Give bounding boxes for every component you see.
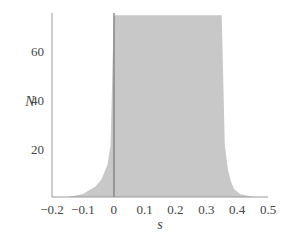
x-tick-label: −0.2 (40, 202, 64, 217)
y-axis-label: N (24, 94, 35, 109)
x-tick-label: 0 (110, 202, 117, 217)
filled-area (52, 15, 268, 197)
x-tick-label: −0.1 (71, 202, 95, 217)
y-tick-label: 20 (31, 142, 44, 157)
distribution-area (52, 15, 268, 197)
x-tick-label: 0.3 (198, 202, 214, 217)
x-tick-label: 0.4 (229, 202, 246, 217)
x-tick-labels: −0.2−0.100.10.20.30.40.5 (40, 202, 276, 217)
x-tick-label: 0.2 (167, 202, 183, 217)
distribution-chart: −0.2−0.100.10.20.30.40.5 204060 s N (0, 0, 290, 238)
x-tick-label: 0.5 (260, 202, 276, 217)
x-axis-label: s (157, 217, 163, 232)
y-tick-label: 60 (31, 44, 44, 59)
x-tick-label: 0.1 (136, 202, 152, 217)
